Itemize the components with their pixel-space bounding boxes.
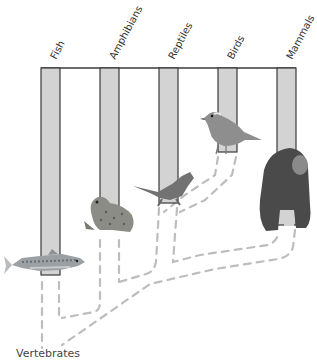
label-reptiles: Reptiles bbox=[166, 21, 194, 61]
label-birds: Birds bbox=[225, 34, 247, 61]
chimpanzee-illustration bbox=[260, 148, 311, 231]
vertebrate-phylogeny-diagram: Fish Amphibians Reptiles Birds Mammals bbox=[0, 0, 317, 362]
root-label: Vertebrates bbox=[16, 347, 80, 360]
frog-illustration bbox=[84, 197, 134, 232]
label-mammals: Mammals bbox=[284, 13, 316, 61]
lineage-line-amphibians bbox=[62, 240, 100, 318]
taxon-bars bbox=[41, 68, 296, 275]
label-amphibians: Amphibians bbox=[107, 4, 144, 61]
taxon-labels: Fish Amphibians Reptiles Birds Mammals bbox=[48, 4, 316, 61]
lineage-line-mammals bbox=[62, 230, 295, 345]
bar-fish bbox=[41, 68, 60, 275]
bar-amphibians bbox=[100, 68, 119, 213]
label-fish: Fish bbox=[48, 39, 67, 61]
